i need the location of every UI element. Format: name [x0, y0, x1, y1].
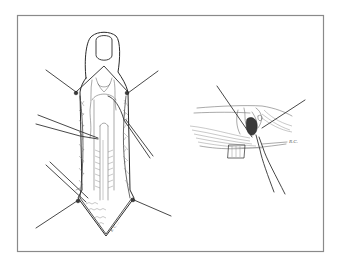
dark-lesion: [246, 118, 257, 135]
annotation-label: R.C.: [288, 139, 298, 144]
surgical-figure: R. C. ...: [0, 0, 341, 259]
